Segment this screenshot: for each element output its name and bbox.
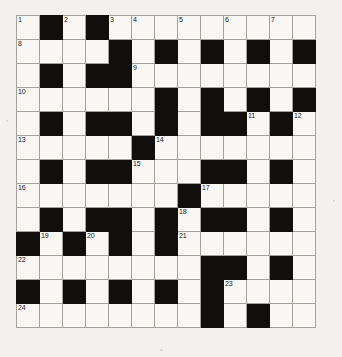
crossword-cell[interactable] <box>201 16 224 40</box>
crossword-cell[interactable] <box>40 280 63 304</box>
crossword-cell[interactable] <box>247 256 270 280</box>
crossword-cell[interactable] <box>178 112 201 136</box>
crossword-cell[interactable] <box>63 112 86 136</box>
crossword-cell-numbered[interactable]: 21 <box>178 232 201 256</box>
crossword-cell[interactable] <box>63 256 86 280</box>
crossword-cell[interactable] <box>224 184 247 208</box>
crossword-cell[interactable] <box>63 184 86 208</box>
crossword-cell[interactable] <box>109 256 132 280</box>
crossword-cell[interactable] <box>270 64 293 88</box>
crossword-cell[interactable] <box>40 256 63 280</box>
crossword-cell[interactable] <box>63 88 86 112</box>
crossword-cell[interactable] <box>270 232 293 256</box>
crossword-cell[interactable] <box>63 304 86 328</box>
crossword-cell[interactable] <box>63 136 86 160</box>
crossword-cell-numbered[interactable]: 4 <box>132 16 155 40</box>
crossword-cell[interactable] <box>270 304 293 328</box>
crossword-cell[interactable] <box>40 88 63 112</box>
crossword-cell[interactable] <box>63 160 86 184</box>
crossword-grid[interactable]: 123456789101112131415161718192021222324 <box>16 15 316 328</box>
crossword-cell[interactable] <box>247 280 270 304</box>
crossword-cell[interactable] <box>40 184 63 208</box>
crossword-cell[interactable] <box>247 184 270 208</box>
crossword-cell[interactable] <box>293 208 316 232</box>
crossword-cell[interactable] <box>109 136 132 160</box>
crossword-cell[interactable] <box>132 280 155 304</box>
crossword-cell-numbered[interactable]: 5 <box>178 16 201 40</box>
crossword-cell[interactable] <box>293 64 316 88</box>
crossword-cell-numbered[interactable]: 6 <box>224 16 247 40</box>
crossword-cell[interactable] <box>178 40 201 64</box>
crossword-cell[interactable] <box>86 304 109 328</box>
crossword-cell[interactable] <box>17 160 40 184</box>
crossword-cell[interactable] <box>63 64 86 88</box>
crossword-cell[interactable] <box>224 304 247 328</box>
crossword-cell-numbered[interactable]: 11 <box>247 112 270 136</box>
crossword-cell[interactable] <box>17 112 40 136</box>
crossword-cell[interactable] <box>155 16 178 40</box>
crossword-cell[interactable] <box>247 232 270 256</box>
crossword-cell-numbered[interactable]: 14 <box>155 136 178 160</box>
crossword-cell[interactable] <box>293 136 316 160</box>
crossword-cell[interactable] <box>132 112 155 136</box>
crossword-cell[interactable] <box>293 232 316 256</box>
crossword-cell[interactable] <box>270 280 293 304</box>
crossword-cell[interactable] <box>224 40 247 64</box>
crossword-cell[interactable] <box>270 184 293 208</box>
crossword-cell[interactable] <box>201 136 224 160</box>
crossword-cell[interactable] <box>155 304 178 328</box>
crossword-cell[interactable] <box>224 88 247 112</box>
crossword-cell[interactable] <box>109 88 132 112</box>
crossword-cell[interactable] <box>178 304 201 328</box>
crossword-cell[interactable] <box>109 184 132 208</box>
crossword-cell[interactable] <box>247 64 270 88</box>
crossword-cell-numbered[interactable]: 16 <box>17 184 40 208</box>
crossword-cell[interactable] <box>86 88 109 112</box>
crossword-cell-numbered[interactable]: 22 <box>17 256 40 280</box>
crossword-cell[interactable] <box>293 16 316 40</box>
crossword-cell[interactable] <box>132 40 155 64</box>
crossword-cell-numbered[interactable]: 2 <box>63 16 86 40</box>
crossword-cell[interactable] <box>247 160 270 184</box>
crossword-cell-numbered[interactable]: 3 <box>109 16 132 40</box>
crossword-cell[interactable] <box>86 136 109 160</box>
crossword-cell[interactable] <box>178 280 201 304</box>
crossword-cell[interactable] <box>132 256 155 280</box>
crossword-cell[interactable] <box>155 256 178 280</box>
crossword-cell-numbered[interactable]: 10 <box>17 88 40 112</box>
crossword-cell[interactable] <box>247 16 270 40</box>
crossword-cell[interactable] <box>86 40 109 64</box>
crossword-cell[interactable] <box>40 304 63 328</box>
crossword-cell[interactable] <box>86 256 109 280</box>
crossword-cell[interactable] <box>178 136 201 160</box>
crossword-cell[interactable] <box>247 208 270 232</box>
crossword-cell[interactable] <box>270 136 293 160</box>
crossword-cell-numbered[interactable]: 20 <box>86 232 109 256</box>
crossword-cell[interactable] <box>178 160 201 184</box>
crossword-cell[interactable] <box>270 88 293 112</box>
crossword-cell[interactable] <box>132 232 155 256</box>
crossword-cell[interactable] <box>40 136 63 160</box>
crossword-cell-numbered[interactable]: 24 <box>17 304 40 328</box>
crossword-cell-numbered[interactable]: 12 <box>293 112 316 136</box>
crossword-cell-numbered[interactable]: 8 <box>17 40 40 64</box>
crossword-cell[interactable] <box>132 184 155 208</box>
crossword-cell[interactable] <box>17 64 40 88</box>
crossword-cell[interactable] <box>17 208 40 232</box>
crossword-cell[interactable] <box>293 304 316 328</box>
crossword-cell-numbered[interactable]: 7 <box>270 16 293 40</box>
crossword-cell[interactable] <box>201 64 224 88</box>
crossword-cell[interactable] <box>63 40 86 64</box>
crossword-cell[interactable] <box>132 208 155 232</box>
crossword-cell[interactable] <box>40 40 63 64</box>
crossword-cell[interactable] <box>270 40 293 64</box>
crossword-cell-numbered[interactable]: 1 <box>17 16 40 40</box>
crossword-cell[interactable] <box>178 64 201 88</box>
crossword-cell-numbered[interactable]: 23 <box>224 280 247 304</box>
crossword-cell[interactable] <box>86 280 109 304</box>
crossword-cell[interactable] <box>293 280 316 304</box>
crossword-cell-numbered[interactable]: 17 <box>201 184 224 208</box>
crossword-cell-numbered[interactable]: 19 <box>40 232 63 256</box>
crossword-cell[interactable] <box>224 232 247 256</box>
crossword-cell[interactable] <box>155 160 178 184</box>
